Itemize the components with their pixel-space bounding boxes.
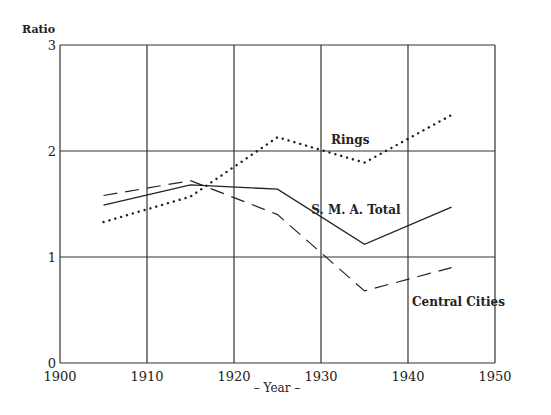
x-tick-label: 1940 bbox=[391, 369, 424, 384]
x-tick-label: 1920 bbox=[217, 369, 250, 384]
x-tick-label: 1930 bbox=[304, 369, 337, 384]
series-label-rings: Rings bbox=[331, 133, 370, 147]
y-axis-label: Ratio bbox=[22, 23, 55, 36]
x-axis-label: – Year – bbox=[254, 381, 301, 395]
chart-svg: 1900191019201930194019500123 Ratio – Yea… bbox=[0, 0, 551, 415]
y-tick-label: 3 bbox=[48, 38, 56, 53]
grid bbox=[60, 45, 495, 363]
series-line-central-cities bbox=[104, 181, 452, 291]
y-tick-label: 2 bbox=[48, 144, 56, 159]
line-chart: 1900191019201930194019500123 Ratio – Yea… bbox=[0, 0, 551, 415]
y-tick-label: 1 bbox=[48, 250, 56, 265]
x-tick-label: 1950 bbox=[478, 369, 511, 384]
x-tick-label: 1910 bbox=[130, 369, 163, 384]
x-tick-label: 1900 bbox=[43, 369, 76, 384]
series-label-sma-total: S. M. A. Total bbox=[311, 203, 401, 217]
series-label-central-cities: Central Cities bbox=[412, 295, 505, 309]
y-tick-label: 0 bbox=[48, 356, 56, 371]
